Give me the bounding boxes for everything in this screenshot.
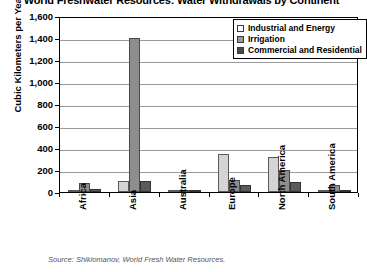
- y-axis-tick-label: 1,600: [7, 12, 53, 21]
- legend-label: Irrigation: [248, 35, 285, 44]
- x-axis-tick-mark: [358, 193, 359, 197]
- bar: [340, 190, 351, 192]
- legend: Industrial and Energy Irrigation Commerc…: [233, 19, 367, 59]
- source-note: Source: Shiklomanov, World Fresh Water R…: [48, 255, 225, 264]
- legend-swatch-industrial-and-energy: [237, 25, 244, 32]
- y-axis-tick-label: 800: [7, 100, 53, 109]
- x-axis-label: Africa: [77, 183, 88, 210]
- legend-label: Commercial and Residential: [248, 46, 362, 55]
- y-axis-tick-label: 200: [7, 166, 53, 175]
- legend-item: Commercial and Residential: [237, 45, 362, 55]
- bar: [129, 38, 140, 192]
- y-axis-tick-label: 1,000: [7, 78, 53, 87]
- legend-swatch-commercial-and-residential: [237, 47, 244, 54]
- x-axis-label: South America: [326, 143, 337, 210]
- x-axis-label: North America: [276, 145, 287, 210]
- x-axis-label: Europe: [226, 177, 237, 210]
- legend-label: Industrial and Energy: [248, 24, 335, 33]
- bar-group: [118, 18, 151, 192]
- y-axis-tick-label: 0: [7, 188, 53, 197]
- bar: [290, 182, 301, 192]
- legend-item: Industrial and Energy: [237, 23, 362, 33]
- y-axis-tick-label: 600: [7, 122, 53, 131]
- bar-group: [168, 18, 201, 192]
- x-axis-tick-mark: [209, 193, 210, 197]
- legend-swatch-irrigation: [237, 36, 244, 43]
- legend-item: Irrigation: [237, 34, 362, 44]
- y-axis-tick-label: 1,200: [7, 56, 53, 65]
- x-axis-tick-mark: [159, 193, 160, 197]
- x-axis-label: Australia: [177, 169, 188, 210]
- y-axis-tick-label: 1,400: [7, 34, 53, 43]
- chart-title: World Freshwater Resources: Water Withdr…: [0, 0, 363, 7]
- x-axis-label: Asia: [127, 190, 138, 210]
- bar: [190, 190, 201, 192]
- bar: [240, 185, 251, 192]
- bar: [140, 181, 151, 192]
- x-axis-tick-mark: [258, 193, 259, 197]
- bar-group: [68, 18, 101, 192]
- x-axis-tick-mark: [109, 193, 110, 197]
- bar: [90, 189, 101, 192]
- x-axis-tick-mark: [59, 193, 60, 197]
- y-axis-tick-label: 400: [7, 144, 53, 153]
- x-axis-tick-mark: [308, 193, 309, 197]
